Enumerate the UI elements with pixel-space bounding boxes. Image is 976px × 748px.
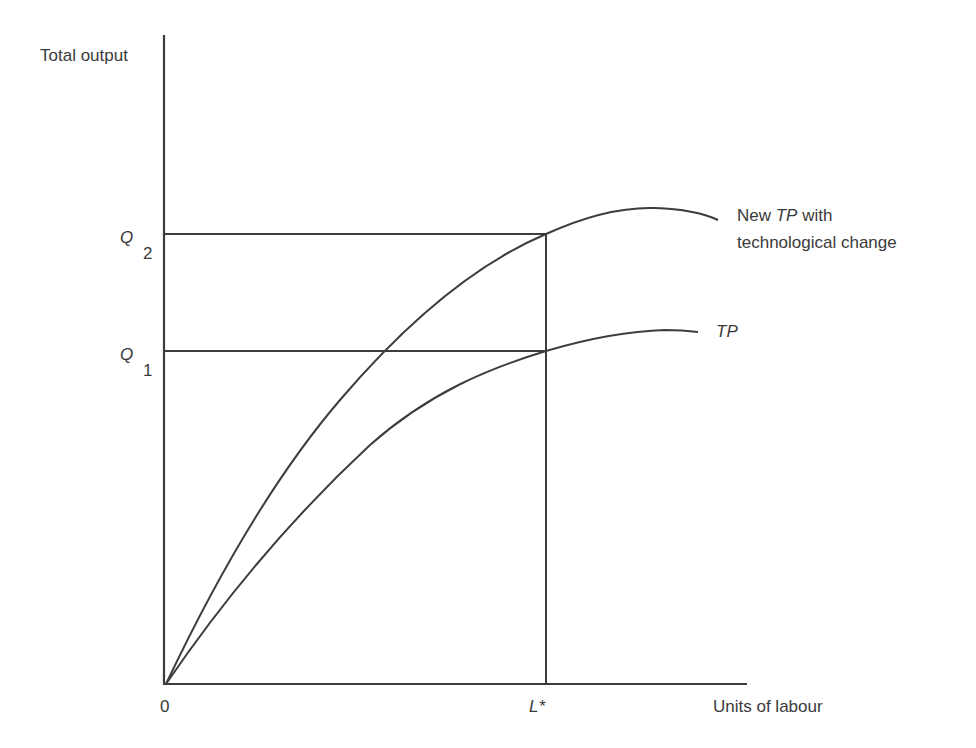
q1-label: Q	[120, 345, 133, 365]
new-tp-curve	[166, 208, 718, 684]
x-axis-label: Units of labour	[713, 697, 823, 717]
q2-subscript: 2	[143, 244, 152, 264]
q2-letter: Q	[120, 228, 133, 247]
y-axis-label: Total output	[40, 46, 128, 66]
q1-subscript: 1	[143, 361, 152, 381]
new-tp-legend-line2: technological change	[737, 233, 897, 253]
new-tp-suffix: with	[797, 206, 832, 225]
tp-legend-label: TP	[716, 322, 738, 342]
new-tp-italic: TP	[776, 206, 798, 225]
q2-label: Q	[120, 228, 133, 248]
lstar-label: L*	[529, 697, 545, 717]
origin-label: 0	[160, 697, 169, 717]
new-tp-legend-label: New TP with	[737, 206, 832, 226]
tp-curve	[166, 330, 698, 684]
q1-letter: Q	[120, 345, 133, 364]
new-tp-prefix: New	[737, 206, 776, 225]
